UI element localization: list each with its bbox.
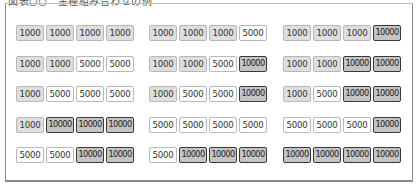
bill-cell: 1000 xyxy=(76,25,104,41)
bill-cell: 1000 xyxy=(283,56,311,72)
bill-cell: 10000 xyxy=(373,117,401,133)
bill-cell: 10000 xyxy=(283,147,311,163)
bill-cell: 5000 xyxy=(209,86,237,102)
combination-row: 1000 5000 10000 10000 xyxy=(283,86,401,102)
bill-cell: 10000 xyxy=(106,117,134,133)
bill-cell: 5000 xyxy=(239,25,267,41)
bill-cell: 1000 xyxy=(149,56,177,72)
bill-cell: 1000 xyxy=(16,86,44,102)
bill-cell: 1000 xyxy=(179,56,207,72)
column-2: 1000 1000 1000 5000 1000 1000 5000 10000… xyxy=(149,25,267,178)
bill-cell: 1000 xyxy=(313,56,341,72)
combination-row: 1000 10000 10000 10000 xyxy=(16,117,134,133)
bill-cell: 10000 xyxy=(343,56,371,72)
bill-cell: 10000 xyxy=(373,25,401,41)
bill-cell: 10000 xyxy=(313,147,341,163)
combination-row: 1000 5000 5000 10000 xyxy=(149,86,267,102)
combination-row: 5000 5000 5000 10000 xyxy=(283,117,401,133)
bill-cell: 5000 xyxy=(283,117,311,133)
combination-row: 1000 1000 5000 5000 xyxy=(16,56,134,72)
bill-cell: 5000 xyxy=(76,56,104,72)
bill-cell: 10000 xyxy=(239,56,267,72)
bill-cell: 5000 xyxy=(149,147,177,163)
bill-cell: 5000 xyxy=(313,117,341,133)
combination-row: 5000 5000 5000 5000 xyxy=(149,117,267,133)
bill-cell: 5000 xyxy=(106,86,134,102)
bill-cell: 10000 xyxy=(46,117,74,133)
bill-cell: 5000 xyxy=(149,117,177,133)
bill-cell: 5000 xyxy=(106,56,134,72)
bill-cell: 1000 xyxy=(283,86,311,102)
bill-cell: 5000 xyxy=(179,117,207,133)
bill-cell: 10000 xyxy=(76,117,104,133)
bill-cell: 1000 xyxy=(16,56,44,72)
bill-cell: 10000 xyxy=(373,56,401,72)
bill-cell: 1000 xyxy=(16,117,44,133)
bill-cell: 10000 xyxy=(239,86,267,102)
bill-cell: 10000 xyxy=(106,147,134,163)
bill-cell: 1000 xyxy=(149,86,177,102)
bill-cell: 10000 xyxy=(373,86,401,102)
bill-cell: 1000 xyxy=(16,25,44,41)
bill-cell: 1000 xyxy=(46,25,74,41)
bill-cell: 10000 xyxy=(343,147,371,163)
combination-row: 1000 1000 1000 10000 xyxy=(283,25,401,41)
combination-row: 1000 1000 1000 5000 xyxy=(149,25,267,41)
combination-row: 10000 10000 10000 10000 xyxy=(283,147,401,163)
bill-cell: 10000 xyxy=(239,147,267,163)
bill-cell: 1000 xyxy=(179,25,207,41)
bill-cell: 1000 xyxy=(343,25,371,41)
bill-cell: 5000 xyxy=(179,86,207,102)
bill-cell: 10000 xyxy=(373,147,401,163)
bill-cell: 5000 xyxy=(343,117,371,133)
column-3: 1000 1000 1000 10000 1000 1000 10000 100… xyxy=(283,25,401,178)
bill-cell: 5000 xyxy=(46,147,74,163)
bill-cell: 5000 xyxy=(209,117,237,133)
bill-cell: 5000 xyxy=(76,86,104,102)
bill-cell: 10000 xyxy=(209,147,237,163)
bill-cell: 10000 xyxy=(76,147,104,163)
bill-cell: 5000 xyxy=(16,147,44,163)
bill-cell: 1000 xyxy=(313,25,341,41)
bill-cell: 5000 xyxy=(46,86,74,102)
bill-cell: 10000 xyxy=(179,147,207,163)
combination-row: 1000 1000 5000 10000 xyxy=(149,56,267,72)
combination-row: 5000 5000 10000 10000 xyxy=(16,147,134,163)
bill-cell: 1000 xyxy=(283,25,311,41)
bill-cell: 5000 xyxy=(239,117,267,133)
bill-cell: 5000 xyxy=(313,86,341,102)
bill-cell: 1000 xyxy=(46,56,74,72)
bill-cell: 5000 xyxy=(209,56,237,72)
bill-cell: 1000 xyxy=(209,25,237,41)
bill-cell: 10000 xyxy=(343,86,371,102)
bill-cell: 1000 xyxy=(106,25,134,41)
combination-row: 1000 5000 5000 5000 xyxy=(16,86,134,102)
bill-cell: 1000 xyxy=(149,25,177,41)
combination-row: 1000 1000 1000 1000 xyxy=(16,25,134,41)
column-1: 1000 1000 1000 1000 1000 1000 5000 5000 … xyxy=(16,25,134,178)
combination-row: 1000 1000 10000 10000 xyxy=(283,56,401,72)
combination-row: 5000 10000 10000 10000 xyxy=(149,147,267,163)
